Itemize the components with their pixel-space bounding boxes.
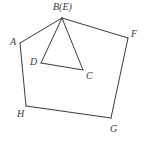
vertex-label-g: G: [110, 124, 117, 134]
segment-h-a: [20, 43, 26, 106]
vertex-label-d: D: [30, 57, 37, 67]
vertex-label-c: C: [86, 71, 93, 81]
figure-canvas: [0, 0, 144, 146]
vertex-label-h: H: [17, 109, 24, 119]
segment-b-f: [62, 18, 128, 38]
segment-f-g: [111, 38, 128, 118]
segment-group: [20, 18, 128, 118]
segment-g-h: [26, 106, 111, 118]
segment-d-c: [41, 63, 83, 70]
vertex-label-a: A: [10, 37, 16, 47]
vertex-label-b: B(E): [53, 2, 72, 12]
vertex-label-f: F: [131, 29, 137, 39]
geometry-figure: B(E) A F D C H G: [0, 0, 144, 146]
segment-b-c: [62, 18, 83, 70]
